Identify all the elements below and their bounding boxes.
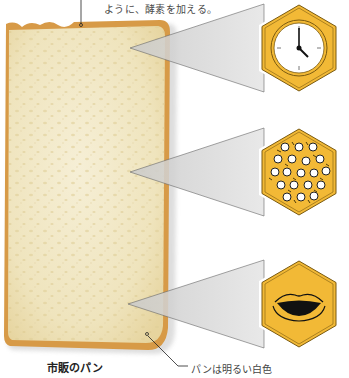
clock-icon — [271, 20, 327, 76]
bread-note: パンは明るい白色 — [191, 361, 272, 376]
lips-hexagon — [259, 258, 339, 350]
diagram-canvas — [0, 0, 349, 378]
bread-label: 市販のパン — [47, 359, 103, 375]
clock-hexagon — [259, 2, 339, 94]
bubbles-hexagon — [259, 126, 339, 218]
top-caption: ように、酵素を加える。 — [104, 1, 217, 16]
